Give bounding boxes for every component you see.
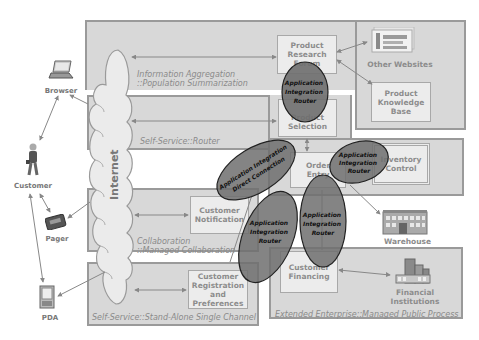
internet-label: Internet <box>108 149 121 200</box>
internet-cloud: Internet <box>89 50 133 304</box>
router-lower-right[interactable]: Application Integration Router <box>300 175 346 267</box>
diagram-overlay: Internet Application Integration Router <box>0 0 479 340</box>
router-top[interactable]: Application Integration Router <box>282 62 328 122</box>
